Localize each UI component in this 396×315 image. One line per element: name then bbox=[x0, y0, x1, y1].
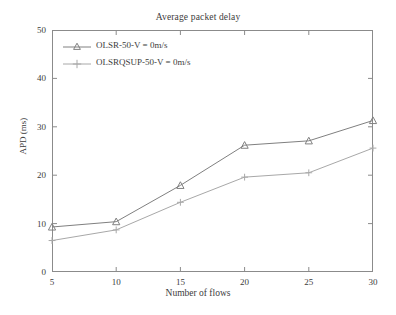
legend-label-0: OLSR-50-V = 0m/s bbox=[92, 40, 167, 50]
x-axis-label-text: Number of flows bbox=[166, 288, 231, 298]
legend-item-1: OLSRQSUP-50-V = 0m/s bbox=[62, 53, 232, 70]
y-tick-label-5: 50 bbox=[20, 25, 46, 35]
legend-marker-triangle-up-icon bbox=[62, 39, 92, 51]
x-axis-label: Number of flows bbox=[0, 288, 396, 298]
data-point-marker bbox=[305, 169, 312, 176]
data-point-marker bbox=[177, 199, 184, 206]
legend-marker-plus-icon bbox=[62, 56, 92, 68]
x-tick-label-3: 20 bbox=[230, 277, 260, 287]
y-tick-label-2: 20 bbox=[20, 170, 46, 180]
y-tick-label-4: 40 bbox=[20, 73, 46, 83]
y-axis-label: APD (ms) bbox=[18, 106, 34, 166]
x-tick-label-0: 5 bbox=[37, 277, 67, 287]
x-tick-label-4: 25 bbox=[294, 277, 324, 287]
chart-legend: OLSR-50-V = 0m/s OLSRQSUP-50-V = 0m/s bbox=[62, 36, 232, 70]
data-point-marker bbox=[49, 237, 56, 244]
legend-item-0: OLSR-50-V = 0m/s bbox=[62, 36, 232, 53]
y-axis-label-text: APD (ms) bbox=[18, 118, 28, 155]
x-tick-label-2: 15 bbox=[165, 277, 195, 287]
series-layer bbox=[48, 117, 376, 244]
data-point-marker bbox=[370, 145, 377, 152]
y-tick-label-1: 10 bbox=[20, 219, 46, 229]
series-0 bbox=[48, 117, 376, 230]
data-point-marker bbox=[113, 226, 120, 233]
data-point-marker bbox=[369, 117, 376, 124]
series-1 bbox=[49, 145, 377, 244]
x-tick-label-5: 30 bbox=[358, 277, 388, 287]
y-tick-label-0: 0 bbox=[20, 267, 46, 277]
x-tick-label-1: 10 bbox=[101, 277, 131, 287]
legend-label-1: OLSRQSUP-50-V = 0m/s bbox=[92, 57, 190, 67]
chart-figure: Average packet delay 01020304050 5101520… bbox=[0, 0, 396, 315]
data-point-marker bbox=[241, 174, 248, 181]
